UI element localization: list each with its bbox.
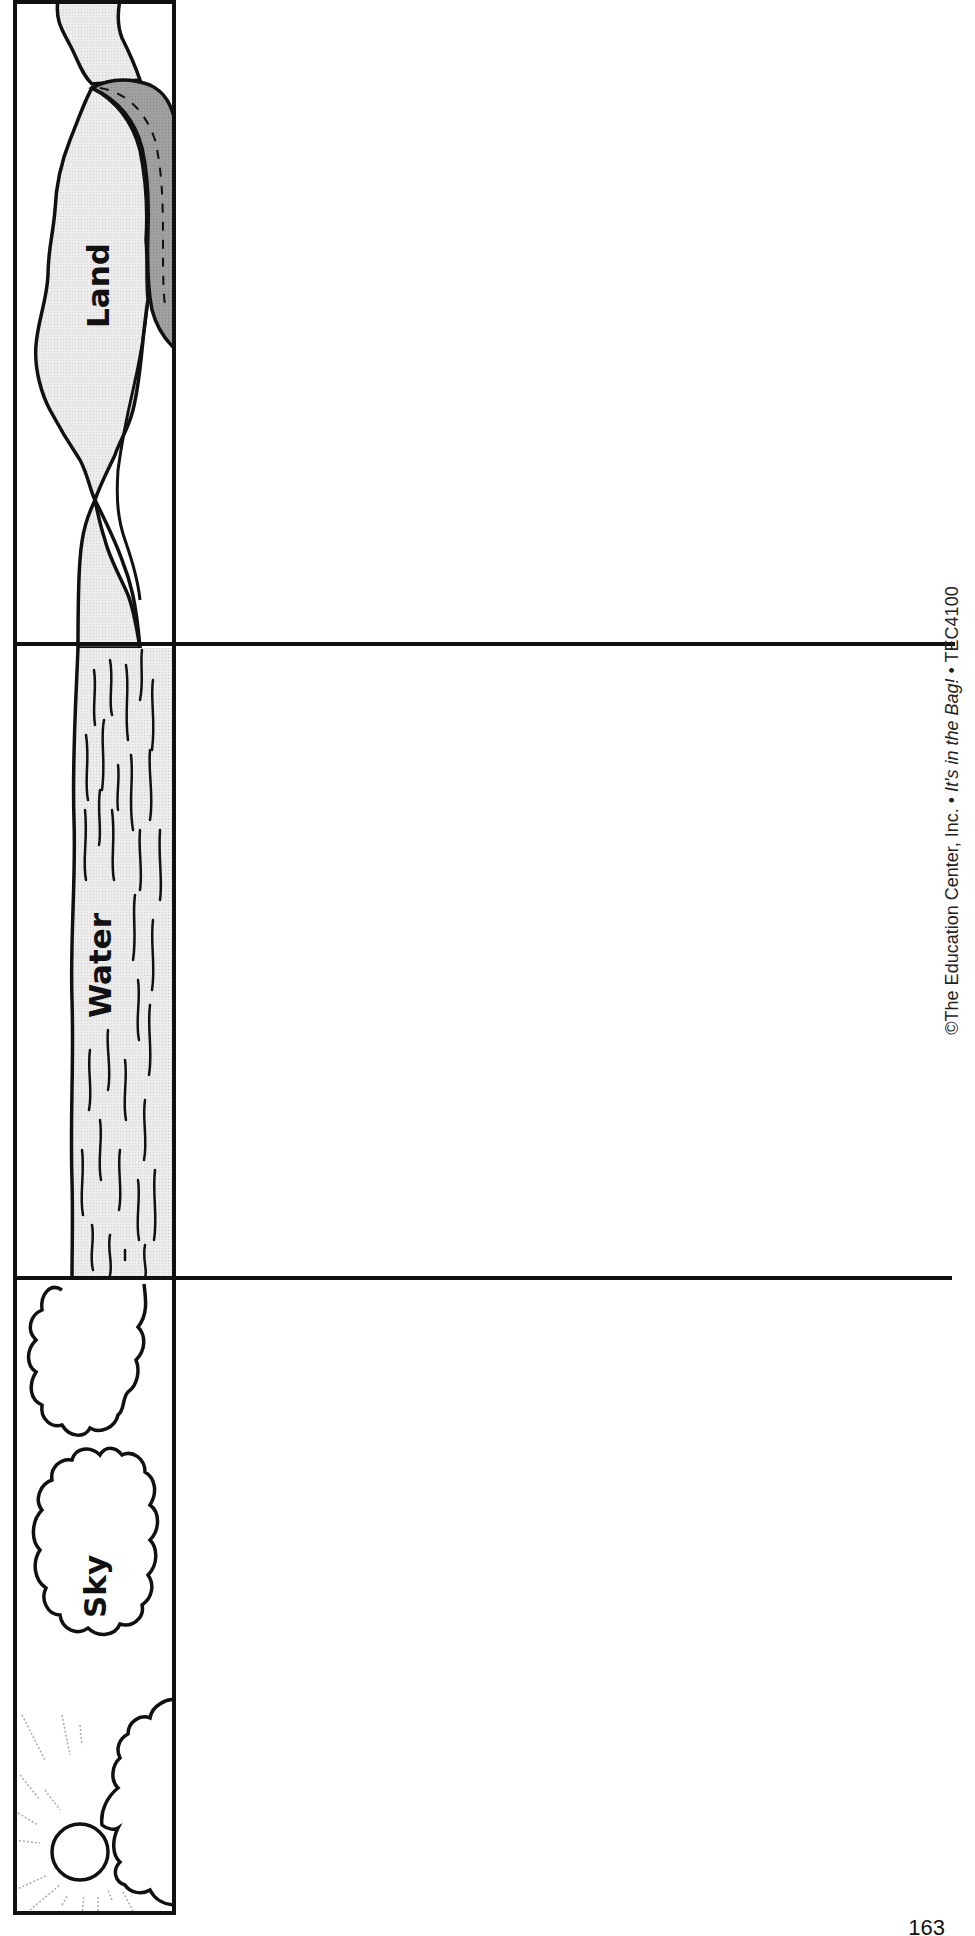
- water-writing-area[interactable]: [180, 648, 880, 1278]
- land-label: Land: [80, 268, 116, 328]
- footer-copyright: ©The Education Center, Inc.: [942, 808, 962, 1034]
- water-sky-divider: [13, 1276, 952, 1280]
- footer-code: TEC4100: [942, 586, 962, 662]
- land-writing-area[interactable]: [180, 0, 880, 642]
- footer-separator-2: •: [942, 667, 962, 673]
- footer-title: It's in the Bag!: [942, 678, 962, 792]
- water-label: Water: [82, 928, 118, 1018]
- land-water-divider: [13, 642, 955, 646]
- page-number: 163: [908, 1915, 945, 1936]
- sky-writing-area[interactable]: [180, 1284, 880, 1914]
- footer-credit: ©The Education Center, Inc. • It's in th…: [942, 501, 963, 1121]
- footer-separator-1: •: [942, 797, 962, 803]
- sky-label: Sky: [77, 1568, 113, 1618]
